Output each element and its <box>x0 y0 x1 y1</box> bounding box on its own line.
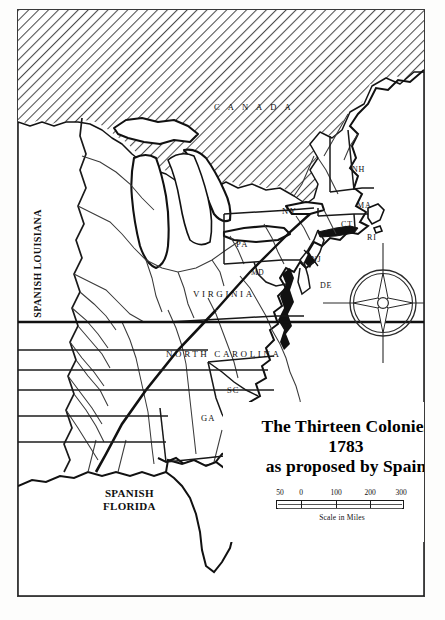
map-frame: C A N A D A SPANISH LOUISIANA SPANISH FL… <box>17 9 425 597</box>
scale-tick-50: 50 <box>276 488 284 497</box>
scale-bar-inner <box>278 504 402 508</box>
scale-bar-tick-3 <box>370 501 371 508</box>
map-title-line-1: The Thirteen Colonies <box>246 416 425 436</box>
scale-tick-labels: 50 0 100 200 300 <box>276 488 408 499</box>
scale-tick-100: 100 <box>330 488 341 497</box>
scale-bar-tick-2 <box>336 501 337 508</box>
scale-tick-300: 300 <box>395 488 406 497</box>
map-title-line-3: as proposed by Spain <box>246 456 425 476</box>
map-title-line-2: 1783 <box>246 436 425 456</box>
map-page: C A N A D A SPANISH LOUISIANA SPANISH FL… <box>0 0 445 620</box>
scale-tick-200: 200 <box>364 488 375 497</box>
scale-bar-graphic <box>276 500 404 509</box>
scale-tick-0: 0 <box>299 488 303 497</box>
map-scale: 50 0 100 200 300 Scale in Miles <box>276 488 408 522</box>
map-title-block: The Thirteen Colonies 1783 as proposed b… <box>246 416 425 476</box>
scale-bar-tick-1 <box>301 501 302 508</box>
scale-caption: Scale in Miles <box>276 513 408 522</box>
